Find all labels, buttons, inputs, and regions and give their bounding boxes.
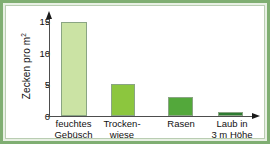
bar bbox=[218, 112, 243, 116]
bar bbox=[168, 97, 193, 116]
bar bbox=[61, 22, 87, 116]
bar bbox=[111, 84, 135, 116]
category-label-line1: Trocken- bbox=[103, 118, 140, 129]
category-label-line1: Rasen bbox=[167, 118, 194, 129]
plot-area-card: Zecken pro m2 0 5 10 15 feuchtes bbox=[5, 5, 265, 139]
category-label-line1: feuchtes bbox=[56, 118, 92, 129]
category-label-line1: Laub in bbox=[216, 118, 247, 129]
chart-figure: Zecken pro m2 0 5 10 15 feuchtes bbox=[0, 0, 270, 144]
category-label-line2: wiese bbox=[92, 129, 152, 140]
x-axis-category-label: Laub in 3 m Höhe bbox=[201, 118, 263, 140]
category-label-line2: 3 m Höhe bbox=[201, 129, 263, 140]
x-axis-category-label: Trocken- wiese bbox=[92, 118, 152, 140]
